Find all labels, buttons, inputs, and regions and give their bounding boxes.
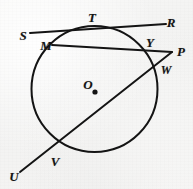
point-label-R: R (167, 16, 176, 29)
secant-line-UP (20, 52, 172, 172)
geometry-canvas (0, 0, 193, 189)
point-label-O: O (83, 78, 92, 91)
point-label-V: V (51, 155, 60, 168)
point-label-W: W (161, 64, 172, 76)
center-point-dot (92, 89, 97, 94)
point-label-T: T (88, 11, 96, 24)
geometry-figure: S T R M Y P W O V U (0, 0, 193, 189)
point-label-P: P (177, 45, 185, 58)
point-label-M: M (40, 39, 52, 52)
point-label-S: S (19, 29, 26, 42)
point-label-U: U (9, 170, 18, 183)
point-label-Y: Y (146, 36, 154, 49)
